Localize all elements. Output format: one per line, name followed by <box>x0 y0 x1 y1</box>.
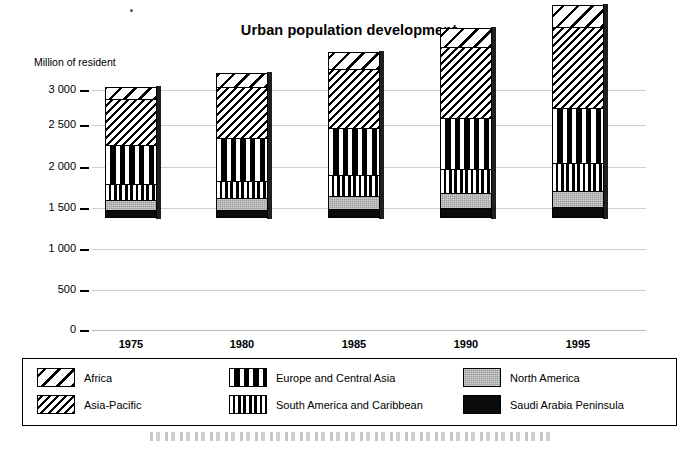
tick-2000 <box>80 167 89 169</box>
segment-africa <box>329 53 379 70</box>
segment-africa <box>553 6 603 28</box>
segment-asia-pacific <box>441 48 491 119</box>
segment-south-america-caribbean <box>217 182 267 200</box>
segment-asia-pacific <box>329 70 379 129</box>
legend-swatch-europe-central-asia-icon <box>229 368 267 387</box>
y-tick-label-500: 500 <box>20 284 76 295</box>
segment-saudi-arabia-peninsula <box>217 211 267 217</box>
tick-1000 <box>80 249 89 251</box>
legend-swatch-south-america-caribbean-icon <box>229 395 267 414</box>
gridline-1000 <box>92 249 646 250</box>
legend-item-africa[interactable]: Africa <box>37 368 112 387</box>
legend-label-europe-central-asia: Europe and Central Asia <box>276 372 395 384</box>
legend-swatch-saudi-arabia-peninsula-icon <box>463 395 501 414</box>
gridline-0 <box>92 330 646 331</box>
tick-2500 <box>80 125 89 127</box>
x-tick-label-1995: 1995 <box>535 338 621 350</box>
y-tick-label-2000: 2 000 <box>20 161 76 172</box>
segment-north-america <box>441 194 491 209</box>
legend-swatch-africa-icon <box>37 368 75 387</box>
segment-south-america-caribbean <box>441 170 491 194</box>
stacked-bar-1975[interactable] <box>105 87 157 218</box>
segment-saudi-arabia-peninsula <box>106 211 156 217</box>
segment-north-america <box>217 199 267 210</box>
segment-asia-pacific <box>106 100 156 145</box>
x-tick-label-1980: 1980 <box>199 338 285 350</box>
segment-europe-central-asia <box>106 146 156 185</box>
segment-saudi-arabia-peninsula <box>441 209 491 217</box>
segment-europe-central-asia <box>441 119 491 170</box>
tick-1500 <box>80 208 89 210</box>
legend-item-europe-central-asia[interactable]: Europe and Central Asia <box>229 368 395 387</box>
segment-north-america <box>106 201 156 211</box>
segment-saudi-arabia-peninsula <box>329 210 379 217</box>
tick-0 <box>80 330 89 332</box>
segment-europe-central-asia <box>217 139 267 182</box>
segment-africa <box>441 29 491 48</box>
segment-asia-pacific <box>553 28 603 109</box>
segment-south-america-caribbean <box>106 185 156 201</box>
legend-label-north-america: North America <box>510 372 580 384</box>
legend-item-saudi-arabia-peninsula[interactable]: Saudi Arabia Peninsula <box>463 395 624 414</box>
legend-label-saudi-arabia-peninsula: Saudi Arabia Peninsula <box>510 399 624 411</box>
segment-south-america-caribbean <box>553 164 603 192</box>
legend-label-asia-pacific: Asia-Pacific <box>84 399 141 411</box>
segment-north-america <box>553 192 603 209</box>
y-tick-label-1000: 1 000 <box>20 243 76 254</box>
legend-label-south-america-caribbean: South America and Caribbean <box>276 399 423 411</box>
x-tick-label-1990: 1990 <box>423 338 509 350</box>
scan-artifact-caption <box>150 432 550 441</box>
segment-europe-central-asia <box>553 109 603 163</box>
segment-africa <box>106 88 156 100</box>
legend-item-south-america-caribbean[interactable]: South America and Caribbean <box>229 395 423 414</box>
segment-south-america-caribbean <box>329 176 379 197</box>
tick-3000 <box>80 90 89 92</box>
segment-europe-central-asia <box>329 129 379 176</box>
gridline-500 <box>92 290 646 291</box>
y-tick-label-3000: 3 000 <box>20 84 76 95</box>
plot-area: 3 000 2 500 2 000 1 500 1 000 500 0 1975 <box>0 0 698 340</box>
segment-asia-pacific <box>217 88 267 138</box>
legend-item-asia-pacific[interactable]: Asia-Pacific <box>37 395 141 414</box>
x-tick-label-1985: 1985 <box>311 338 397 350</box>
legend-label-africa: Africa <box>84 372 112 384</box>
segment-north-america <box>329 197 379 210</box>
stacked-bar-1985[interactable] <box>328 52 380 218</box>
y-tick-label-1500: 1 500 <box>20 202 76 213</box>
tick-500 <box>80 290 89 292</box>
chart-figure: Urban population development Million of … <box>0 0 698 452</box>
stacked-bar-1995[interactable] <box>552 5 604 218</box>
chart-legend: Africa Asia-Pacific Europe and Central A… <box>22 358 677 426</box>
y-tick-label-2500: 2 500 <box>20 119 76 130</box>
segment-africa <box>217 74 267 88</box>
stacked-bar-1990[interactable] <box>440 28 492 218</box>
legend-item-north-america[interactable]: North America <box>463 368 580 387</box>
y-tick-label-0: 0 <box>20 324 76 335</box>
x-tick-label-1975: 1975 <box>88 338 174 350</box>
segment-saudi-arabia-peninsula <box>553 208 603 217</box>
stacked-bar-1980[interactable] <box>216 73 268 218</box>
legend-swatch-north-america-icon <box>463 368 501 387</box>
legend-swatch-asia-pacific-icon <box>37 395 75 414</box>
